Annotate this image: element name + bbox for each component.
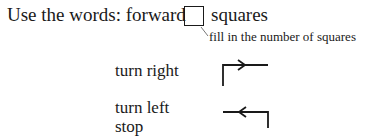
diagram-overlay [0, 0, 374, 137]
turn-right-arrow-icon [223, 60, 268, 86]
annotation-leader-line [201, 27, 208, 36]
turn-left-arrow-icon [223, 107, 268, 128]
